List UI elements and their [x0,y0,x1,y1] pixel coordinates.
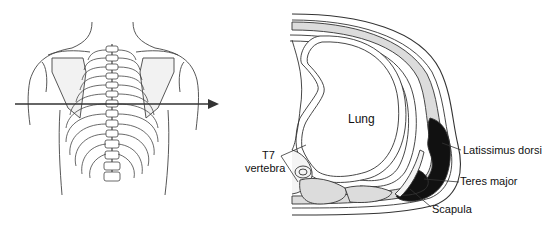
label-lung: Lung [348,113,375,126]
label-scapula: Scapula [432,203,472,216]
label-vertebra: vertebra [245,162,285,175]
label-latissimus-dorsi: Latissimus dorsi [463,144,542,157]
posterior-thorax-illustration [0,0,230,225]
anatomy-figure: Lung T7 vertebra Latissimus dorsi Teres … [0,0,548,225]
label-teres-major: Teres major [460,175,517,188]
label-t7: T7 [262,149,275,162]
